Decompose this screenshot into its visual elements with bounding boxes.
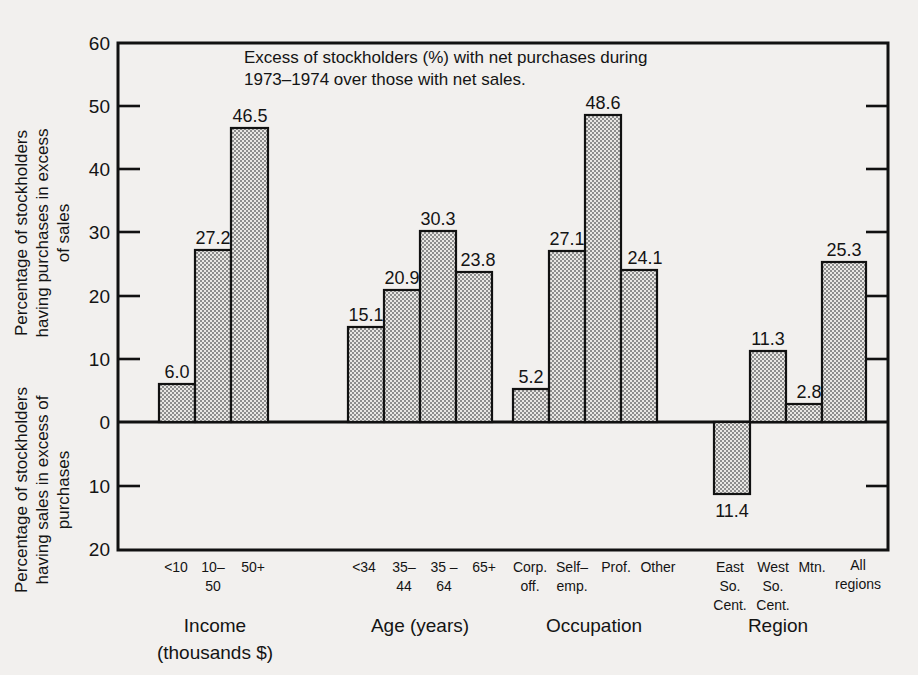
value-label-region-west-so-cent: 11.3 xyxy=(751,329,785,349)
cat-label-age-35-64-b: 64 xyxy=(436,578,452,594)
y-tick-0: 0 xyxy=(99,412,110,433)
value-label-income-10-50: 27.2 xyxy=(195,228,230,248)
y-axis-ticks-left xyxy=(118,106,140,486)
cat-label-region-all-b: regions xyxy=(835,576,881,592)
cat-label-occ-corp-a: Corp. xyxy=(513,559,547,575)
cat-label-occ-corp-b: off. xyxy=(520,578,539,594)
value-label-occ-corp-off: 5.2 xyxy=(518,367,543,387)
bar-region-mtn[interactable] xyxy=(786,404,822,422)
y-tick-30: 30 xyxy=(89,222,110,243)
y-axis-label-bottom-line-1: Percentage of stockholders xyxy=(12,387,31,593)
annotation-line-1: Excess of stockholders (%) with net purc… xyxy=(244,48,647,67)
group-title-income-line1: Income xyxy=(184,615,246,636)
bar-age-65plus[interactable] xyxy=(456,272,492,422)
cat-label-income-lt10: <10 xyxy=(164,559,188,575)
bar-region-all[interactable] xyxy=(822,262,866,422)
value-label-region-mtn: 2.8 xyxy=(796,382,821,402)
cat-label-region-west-b: So. xyxy=(762,578,783,594)
cat-label-occ-prof: Prof. xyxy=(601,559,631,575)
cat-label-region-east-a: East xyxy=(716,559,744,575)
bar-chart-svg: 60 50 40 30 20 10 0 10 20 Excess of stoc… xyxy=(0,0,918,675)
value-label-age-35-44: 20.9 xyxy=(384,268,419,288)
chart-figure: 60 50 40 30 20 10 0 10 20 Excess of stoc… xyxy=(0,0,918,675)
chart-annotation: Excess of stockholders (%) with net purc… xyxy=(244,48,647,89)
y-tick-40: 40 xyxy=(89,159,110,180)
value-label-region-all: 25.3 xyxy=(826,240,861,260)
value-label-age-lt34: 15.1 xyxy=(348,305,383,325)
y-axis-label-top-line-1: Percentage of stockholders xyxy=(12,130,31,336)
cat-label-occ-self-b: emp. xyxy=(556,578,587,594)
value-label-age-65plus: 23.8 xyxy=(460,250,495,270)
y-axis-ticks-right xyxy=(866,106,888,486)
cat-label-age-35-44-a: 35– xyxy=(392,559,416,575)
bar-occ-corp-off[interactable] xyxy=(513,389,549,422)
bar-age-lt34[interactable] xyxy=(348,327,384,422)
cat-label-region-mtn: Mtn. xyxy=(798,559,825,575)
y-axis-label-top-line-3: of sales xyxy=(54,204,73,263)
group-title-occupation: Occupation xyxy=(546,615,642,636)
group-title-age: Age (years) xyxy=(371,615,469,636)
annotation-line-2: 1973–1974 over those with net sales. xyxy=(244,70,526,89)
y-tick-neg20: 20 xyxy=(89,539,110,560)
y-axis-label-bottom: Percentage of stockholders having sales … xyxy=(12,387,73,593)
value-label-occ-self-emp: 27.1 xyxy=(549,229,584,249)
bar-age-35-44[interactable] xyxy=(384,290,420,422)
bar-region-west-so-cent[interactable] xyxy=(750,351,786,422)
y-axis-tick-labels: 60 50 40 30 20 10 0 10 20 xyxy=(89,33,110,560)
cat-label-age-65plus: 65+ xyxy=(472,559,496,575)
bar-income-50plus[interactable] xyxy=(231,128,268,422)
bar-income-10-50[interactable] xyxy=(195,250,231,422)
y-tick-neg10: 10 xyxy=(89,476,110,497)
value-label-occ-prof: 48.6 xyxy=(585,93,620,113)
value-label-occ-other: 24.1 xyxy=(627,248,662,268)
cat-label-region-all-a: All xyxy=(850,557,866,573)
value-label-income-lt10: 6.0 xyxy=(164,362,189,382)
value-label-region-east-so-cent: 11.4 xyxy=(715,501,749,521)
x-axis-category-labels: <10 10– 50 50+ <34 35– 44 35 – 64 65+ Co… xyxy=(164,557,881,613)
cat-label-occ-other: Other xyxy=(640,559,675,575)
bar-group-region xyxy=(714,262,866,494)
cat-label-age-lt34: <34 xyxy=(352,559,376,575)
group-title-region: Region xyxy=(748,615,808,636)
cat-label-income-10-50-b: 50 xyxy=(205,578,221,594)
bar-occ-self-emp[interactable] xyxy=(549,251,585,422)
cat-label-age-35-44-b: 44 xyxy=(396,578,412,594)
bar-occ-other[interactable] xyxy=(621,270,657,422)
y-axis-label-bottom-line-2: having sales in excess of xyxy=(33,395,52,584)
cat-label-region-west-a: West xyxy=(757,559,789,575)
cat-label-age-35-64-a: 35 – xyxy=(430,559,457,575)
cat-label-region-west-c: Cent. xyxy=(756,597,789,613)
group-title-income-line2: (thousands $) xyxy=(157,642,273,663)
y-tick-50: 50 xyxy=(89,96,110,117)
cat-label-region-east-b: So. xyxy=(719,578,740,594)
value-label-age-35-64: 30.3 xyxy=(420,209,455,229)
y-tick-20: 20 xyxy=(89,286,110,307)
bar-occ-prof[interactable] xyxy=(585,115,621,422)
y-tick-10: 10 xyxy=(89,349,110,370)
bar-region-east-so-cent[interactable] xyxy=(714,422,750,494)
bar-income-lt10[interactable] xyxy=(159,384,195,422)
cat-label-income-50plus: 50+ xyxy=(241,559,265,575)
cat-label-region-east-c: Cent. xyxy=(713,597,746,613)
y-axis-label-bottom-line-3: purchases xyxy=(54,451,73,529)
bar-age-35-64[interactable] xyxy=(420,231,456,422)
y-axis-label-top-line-2: having purchases in excess xyxy=(33,129,52,338)
cat-label-income-10-50-a: 10– xyxy=(201,559,225,575)
value-label-income-50plus: 46.5 xyxy=(232,106,267,126)
cat-label-occ-self-a: Self– xyxy=(556,559,588,575)
x-axis-group-titles: Income (thousands $) Age (years) Occupat… xyxy=(157,615,808,663)
y-tick-60: 60 xyxy=(89,33,110,54)
y-axis-label-top: Percentage of stockholders having purcha… xyxy=(12,129,73,338)
